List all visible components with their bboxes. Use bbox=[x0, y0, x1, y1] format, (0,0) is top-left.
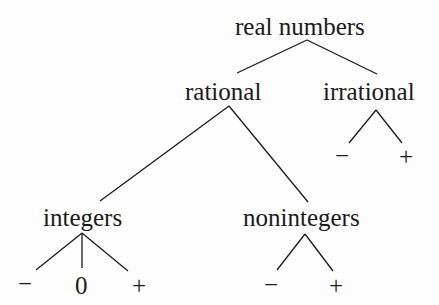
leaf-integers-positive: + bbox=[132, 273, 146, 298]
node-integers: integers bbox=[43, 205, 122, 230]
edge-irrational-neg bbox=[349, 110, 376, 143]
number-classification-tree: real numbers rational irrational integer… bbox=[0, 0, 439, 305]
edge-integers-pos bbox=[82, 233, 128, 271]
leaf-nonintegers-positive: + bbox=[329, 273, 343, 298]
edge-irrational-pos bbox=[376, 110, 402, 143]
edge-nonintegers-pos bbox=[305, 234, 333, 271]
edge-nonintegers-neg bbox=[277, 234, 305, 270]
leaf-irrational-negative: − bbox=[335, 143, 349, 168]
leaf-integers-negative: − bbox=[18, 271, 32, 296]
edge-integers-neg bbox=[36, 233, 82, 270]
node-irrational: irrational bbox=[323, 79, 415, 104]
edge-rational-nonintegers bbox=[229, 106, 308, 202]
tree-edges bbox=[0, 0, 439, 305]
edge-rational-integers bbox=[100, 106, 229, 201]
edge-real-irrational bbox=[307, 40, 377, 74]
leaf-nonintegers-negative: − bbox=[264, 272, 278, 297]
node-real-numbers: real numbers bbox=[235, 14, 365, 39]
leaf-integers-zero: 0 bbox=[75, 273, 88, 298]
node-nonintegers: nonintegers bbox=[243, 205, 360, 230]
edge-real-rational bbox=[237, 40, 307, 73]
node-rational: rational bbox=[185, 79, 261, 104]
leaf-irrational-positive: + bbox=[399, 144, 413, 169]
